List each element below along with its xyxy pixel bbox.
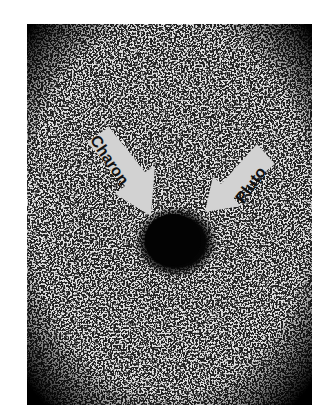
blob-core — [145, 214, 201, 266]
photo-canvas — [27, 24, 312, 405]
astronomical-photo: Charon Pluto — [27, 24, 312, 405]
